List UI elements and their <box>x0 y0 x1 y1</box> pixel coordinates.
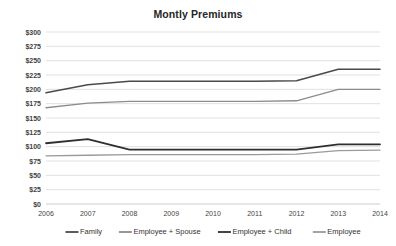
y-axis-tick-label: $100 <box>25 143 41 151</box>
y-axis-tick-label: $50 <box>29 172 41 180</box>
legend-label-employee-child: Employee + Child <box>232 227 291 236</box>
x-axis-tick-label: 2006 <box>38 210 54 217</box>
x-axis-tick-label: 2013 <box>330 210 346 217</box>
y-axis-tick-label: $75 <box>29 158 41 166</box>
y-axis-tick-label: $250 <box>25 57 41 65</box>
x-axis-tick-label: 2008 <box>122 210 138 217</box>
legend-label-family: Family <box>80 227 102 236</box>
series-line-employee-child <box>46 139 380 149</box>
series-lines-group <box>46 69 380 156</box>
x-axis-tick-label: 2012 <box>289 210 305 217</box>
x-axis-tick-label: 2010 <box>205 210 221 217</box>
y-axis-tick-label: $225 <box>25 72 41 80</box>
legend-label-employee-spouse: Employee + Spouse <box>133 227 200 236</box>
y-axis-tick-label: $150 <box>25 115 41 123</box>
chart-container: Montly Premiums $300$275$250$225$200$175… <box>0 0 396 246</box>
x-axis-tick-label: 2014 <box>372 210 388 217</box>
y-axis-tick-label: $25 <box>29 186 41 194</box>
x-axis-tick-labels: 200620072008200920102011201220132014 <box>38 210 388 217</box>
y-axis-tick-labels: $300$275$250$225$200$175$150$125$100$75$… <box>25 29 41 209</box>
y-axis-tick-label: $275 <box>25 43 41 51</box>
series-line-employee <box>46 150 380 156</box>
x-axis-tick-label: 2007 <box>80 210 96 217</box>
chart-legend: FamilyEmployee + SpouseEmployee + ChildE… <box>65 227 360 236</box>
x-axis-tick-label: 2011 <box>247 210 262 217</box>
y-axis-tick-label: $200 <box>25 86 41 94</box>
legend-label-employee: Employee <box>327 227 360 236</box>
gridlines-group <box>46 32 380 204</box>
series-line-employee-spouse <box>46 89 380 107</box>
y-axis-tick-label: $175 <box>25 100 41 108</box>
y-axis-tick-label: $125 <box>25 129 41 137</box>
y-axis-tick-label: $300 <box>25 29 41 37</box>
y-axis-tick-label: $0 <box>33 201 41 209</box>
line-chart-plot: $300$275$250$225$200$175$150$125$100$75$… <box>0 0 396 246</box>
x-axis-tick-label: 2009 <box>163 210 179 217</box>
